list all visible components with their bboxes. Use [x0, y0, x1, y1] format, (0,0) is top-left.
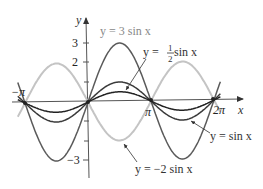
annotation-sin: y = sin x: [210, 129, 252, 143]
svg-text:y =: y =: [143, 45, 159, 59]
y-axis-label: y: [75, 13, 82, 27]
arrow-neg2-sin: [124, 144, 137, 162]
annotation-3-sin: y = 3 sin x: [100, 24, 151, 38]
arrow-sin: [191, 121, 210, 133]
annotation-neg2-sin: y = −2 sin x: [135, 162, 193, 176]
tick-label-3: 3: [72, 36, 78, 50]
tick-label-neg-pi: −π: [11, 85, 26, 99]
tick-label-2: 2: [72, 55, 78, 69]
point-2pi: [211, 97, 215, 101]
svg-text:1: 1: [168, 43, 173, 53]
tick-label-2pi: 2π: [213, 103, 226, 117]
arrow-half-sin: [126, 59, 146, 90]
svg-text:2: 2: [168, 54, 173, 64]
x-axis-label: x: [237, 103, 244, 117]
tick-label-pi: π: [145, 105, 152, 119]
point-origin: [86, 100, 90, 104]
x-axis: [12, 99, 243, 102]
chart: y x 3 2 −3 −π π 2π y = 3 sin x y = 1 2 s…: [0, 0, 263, 189]
point-neg-pi: [23, 101, 27, 105]
annotation-half-sin: y = 1 2 sin x: [143, 43, 197, 64]
point-pi: [149, 98, 153, 102]
tick-label-neg3: −3: [67, 153, 80, 167]
svg-text:sin x: sin x: [174, 45, 197, 59]
